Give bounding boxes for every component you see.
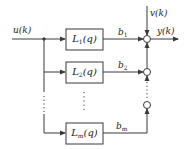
block-L1-label: L1(q) [66,34,103,45]
input-label: u(k) [13,26,31,35]
block-Lm-label: Lm(q) [66,128,103,139]
gain-b2-label: b2 [118,61,128,71]
sum-junction-2 [144,69,151,76]
sum-junction-m [144,102,151,109]
sum-junction-1 [144,36,151,43]
gain-bm-label: bm [116,122,127,132]
output-label: y(k) [157,27,175,36]
disturbance-label: v(k) [150,9,168,18]
gain-b1-label: b1 [118,28,128,38]
block-L2-label: L2(q) [66,67,103,78]
